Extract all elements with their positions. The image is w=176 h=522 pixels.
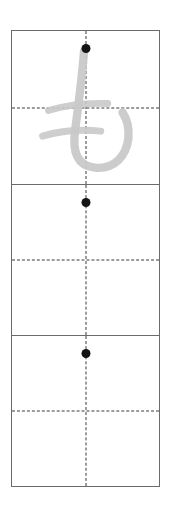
vertical-center-guide bbox=[85, 31, 86, 184]
vertical-center-guide bbox=[85, 336, 86, 486]
hiragana-practice-worksheet bbox=[0, 0, 176, 522]
stroke-start-dot bbox=[81, 198, 90, 207]
practice-grid bbox=[11, 30, 160, 487]
practice-cell-2[interactable] bbox=[12, 185, 159, 336]
practice-cell-3[interactable] bbox=[12, 336, 159, 486]
stroke-start-dot bbox=[81, 349, 90, 358]
vertical-center-guide bbox=[85, 185, 86, 335]
stroke-start-dot bbox=[81, 44, 90, 53]
practice-cell-1[interactable] bbox=[12, 31, 159, 185]
